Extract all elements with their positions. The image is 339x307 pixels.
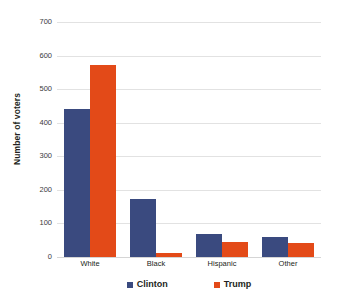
bar-clinton-black bbox=[130, 199, 156, 257]
bar-clinton-hispanic bbox=[196, 234, 222, 257]
legend-label: Trump bbox=[224, 280, 252, 289]
y-axis-tick-label: 400 bbox=[39, 119, 52, 127]
legend-label: Clinton bbox=[137, 280, 168, 289]
legend-item-clinton[interactable]: Clinton bbox=[127, 280, 168, 289]
bar-clinton-other bbox=[262, 237, 288, 257]
legend-item-trump[interactable]: Trump bbox=[214, 280, 252, 289]
y-axis-title: Number of voters bbox=[4, 0, 30, 257]
y-axis-tick-label: 500 bbox=[39, 85, 52, 93]
legend-swatch-icon bbox=[127, 282, 133, 288]
y-axis-tick-label: 100 bbox=[39, 220, 52, 228]
y-axis-tick-label: 700 bbox=[39, 18, 52, 26]
y-axis-tick-label: 0 bbox=[48, 253, 52, 261]
bar-trump-hispanic bbox=[222, 242, 248, 257]
bar-group bbox=[196, 22, 248, 257]
x-axis-tick-label: Black bbox=[147, 259, 165, 268]
y-axis-title-label: Number of voters bbox=[12, 93, 22, 165]
bars-layer bbox=[57, 22, 321, 257]
legend-swatch-icon bbox=[214, 282, 220, 288]
x-axis-tick-label: Other bbox=[279, 259, 298, 268]
plot-area: 0100200300400500600700 bbox=[57, 22, 321, 257]
chart-legend: ClintonTrump bbox=[57, 280, 321, 289]
bar-group bbox=[262, 22, 314, 257]
x-axis-tick-label: Hispanic bbox=[208, 259, 237, 268]
x-axis-tick-labels: WhiteBlackHispanicOther bbox=[57, 259, 321, 273]
bar-trump-white bbox=[90, 65, 116, 257]
y-axis-tick-label: 300 bbox=[39, 153, 52, 161]
y-axis-tick-label: 200 bbox=[39, 186, 52, 194]
gridline bbox=[57, 257, 321, 258]
bar-trump-black bbox=[156, 253, 182, 257]
bar-trump-other bbox=[288, 243, 314, 257]
x-axis-tick-label: White bbox=[80, 259, 99, 268]
bar-group bbox=[130, 22, 182, 257]
bar-clinton-white bbox=[64, 109, 90, 257]
y-axis-tick-label: 600 bbox=[39, 52, 52, 60]
bar-group bbox=[64, 22, 116, 257]
bar-chart: Number of voters 0100200300400500600700 … bbox=[0, 0, 339, 307]
